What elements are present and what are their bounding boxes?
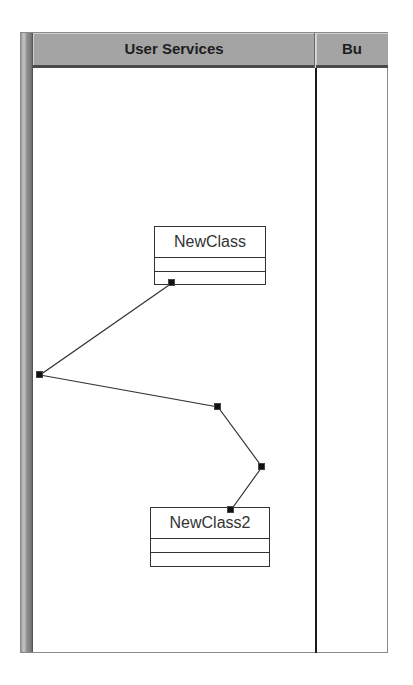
swimlane-header-user-services[interactable]: User Services [33, 33, 315, 68]
connector-handle-start[interactable] [168, 279, 175, 286]
class-box-newclass2[interactable]: NewClass2 [150, 507, 270, 567]
connector-handle-end[interactable] [227, 506, 234, 513]
class-name: NewClass [155, 227, 265, 258]
swimlane-header-business[interactable]: Bu [316, 33, 388, 68]
class-attributes-section [151, 539, 269, 553]
swimlane-body-business[interactable] [317, 68, 388, 652]
swimlane-left-bar [21, 33, 33, 652]
connector-handle-bend-3[interactable] [258, 463, 265, 470]
connector-handle-bend-2[interactable] [214, 403, 221, 410]
connector-handle-bend-1[interactable] [36, 371, 43, 378]
class-attributes-section [155, 258, 265, 272]
class-box-newclass[interactable]: NewClass [154, 226, 266, 285]
class-operations-section [151, 553, 269, 566]
class-name: NewClass2 [151, 508, 269, 539]
